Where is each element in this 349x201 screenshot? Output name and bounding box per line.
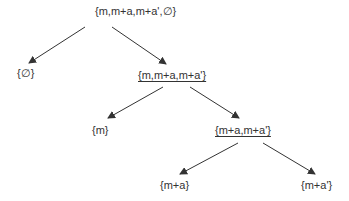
node-m-ma-map: {m,m+a,m+a'} xyxy=(138,69,206,82)
node-ma-map: {m+a,m+a'} xyxy=(215,124,271,137)
arrow-n2-to-ma xyxy=(180,143,238,174)
arrow-n1-to-m xyxy=(108,87,163,118)
node-root: {m,m+a,m+a',∅} xyxy=(95,5,176,18)
node-empty-set: {∅} xyxy=(17,67,34,80)
arrow-root-to-n1 xyxy=(112,27,166,64)
arrow-root-to-empty xyxy=(29,27,85,63)
tree-edges xyxy=(0,0,349,201)
node-ma: {m+a} xyxy=(160,179,189,192)
arrow-n1-to-n2 xyxy=(190,87,239,118)
node-m: {m} xyxy=(92,124,109,137)
arrow-n2-to-map xyxy=(263,143,315,174)
node-map: {m+a'} xyxy=(301,179,332,192)
